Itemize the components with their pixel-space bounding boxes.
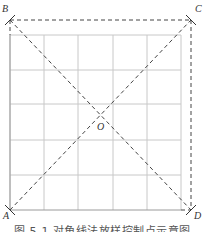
- diagonal-bd: [10, 20, 191, 210]
- diagonal-grid-diagram: [0, 0, 205, 232]
- dashed-outline: [10, 20, 191, 210]
- point-label-c: C: [195, 4, 202, 14]
- figure-caption: 图 5-1 对角线法放样控制点示意图: [0, 222, 205, 232]
- point-label-o: O: [97, 122, 104, 132]
- point-label-a: A: [3, 211, 9, 221]
- point-label-d: D: [194, 211, 201, 221]
- diagonal-ac: [10, 20, 191, 210]
- point-label-b: B: [2, 4, 8, 14]
- corner-ticks: [5, 15, 196, 215]
